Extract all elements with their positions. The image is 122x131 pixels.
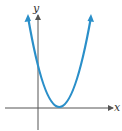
right-arrowhead-icon bbox=[88, 14, 95, 22]
parabola-graph: y x bbox=[0, 0, 122, 131]
x-axis-label: x bbox=[114, 102, 120, 113]
parabola-curve bbox=[28, 17, 91, 107]
graph-canvas bbox=[0, 0, 122, 131]
y-axis-label: y bbox=[33, 3, 39, 14]
left-arrowhead-icon bbox=[25, 14, 32, 22]
